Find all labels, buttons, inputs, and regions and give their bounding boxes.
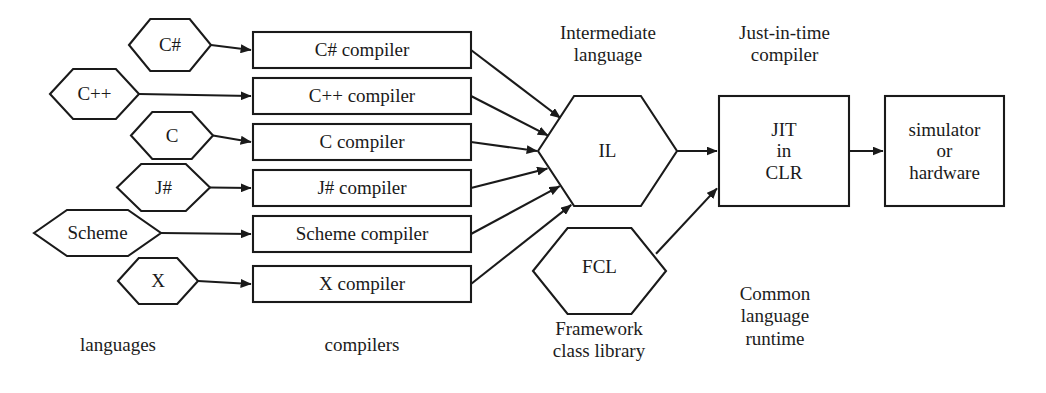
- arrow-cpp-compiler-to-il: [471, 96, 548, 136]
- caption-languages: languages: [48, 334, 188, 356]
- caption-text: Common language runtime: [740, 283, 811, 349]
- arrow-scheme-to-compiler: [161, 233, 251, 234]
- arrow-c-compiler-to-il: [471, 142, 537, 151]
- language-hexagon-jsharp[interactable]: [117, 164, 210, 211]
- caption-text: Framework class library: [553, 318, 645, 361]
- compiler-box-x[interactable]: [253, 266, 471, 302]
- caption-intermediate-language: Intermediate language: [533, 22, 683, 67]
- language-hexagon-scheme[interactable]: [34, 210, 161, 256]
- caption-framework-class-library: Framework class library: [524, 318, 674, 363]
- caption-just-in-time-compiler: Just-in-time compiler: [712, 22, 857, 67]
- compiler-box-scheme[interactable]: [253, 216, 471, 252]
- arrow-jsharp-to-compiler: [210, 188, 251, 189]
- language-hexagon-x[interactable]: [118, 258, 198, 304]
- language-hexagon-c[interactable]: [131, 112, 213, 159]
- arrow-csharp-to-compiler: [211, 45, 251, 50]
- caption-common-language-runtime: Common language runtime: [700, 283, 850, 350]
- caption-text: languages: [80, 334, 156, 355]
- arrow-cpp-to-compiler: [139, 94, 251, 96]
- compiler-box-csharp[interactable]: [253, 32, 471, 68]
- caption-text: compilers: [325, 334, 400, 355]
- compilation-pipeline-diagram: C# C++ C J# Scheme X C# compiler C++ com…: [0, 0, 1046, 393]
- compiler-box-cpp[interactable]: [253, 78, 471, 114]
- caption-text: Intermediate language: [560, 22, 656, 65]
- language-hexagon-csharp[interactable]: [129, 19, 211, 71]
- compiler-box-jsharp[interactable]: [253, 170, 471, 206]
- target-box[interactable]: [885, 96, 1004, 206]
- arrow-fcl-to-jit: [656, 188, 717, 253]
- arrow-scheme-compiler-to-il: [471, 186, 560, 234]
- arrow-x-to-compiler: [198, 281, 251, 284]
- caption-compilers: compilers: [292, 334, 432, 356]
- jit-box[interactable]: [719, 96, 849, 206]
- fcl-hexagon[interactable]: [533, 228, 666, 314]
- caption-text: Just-in-time compiler: [739, 22, 830, 65]
- arrow-c-to-compiler: [213, 136, 251, 143]
- language-hexagon-cpp[interactable]: [50, 69, 139, 119]
- il-hexagon[interactable]: [538, 96, 677, 206]
- arrow-jsharp-compiler-to-il: [471, 169, 547, 188]
- arrow-x-compiler-to-il: [471, 205, 571, 284]
- compiler-box-c[interactable]: [253, 124, 471, 160]
